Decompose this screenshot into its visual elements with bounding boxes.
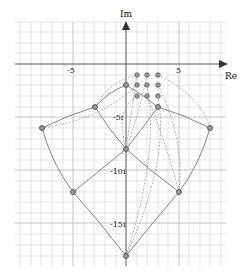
real-axis-label: Re bbox=[225, 71, 237, 81]
y-tick-neg10i: -10i bbox=[110, 167, 126, 176]
grid bbox=[15, 22, 226, 266]
major-grid bbox=[15, 22, 226, 266]
complex-plane-diagram: Im Re -5 5 -5i -10i -15i bbox=[0, 0, 246, 280]
complex-plane-svg: Im Re -5 5 -5i -10i -15i bbox=[0, 0, 246, 280]
x-tick-neg5: -5 bbox=[67, 66, 75, 75]
x-tick-5: 5 bbox=[176, 66, 181, 75]
real-axis-arrow-icon bbox=[219, 60, 228, 68]
imaginary-axis-label: Im bbox=[120, 9, 133, 19]
input-grid-points bbox=[135, 73, 161, 99]
y-tick-neg15i: -15i bbox=[110, 220, 126, 229]
axes bbox=[15, 28, 222, 266]
